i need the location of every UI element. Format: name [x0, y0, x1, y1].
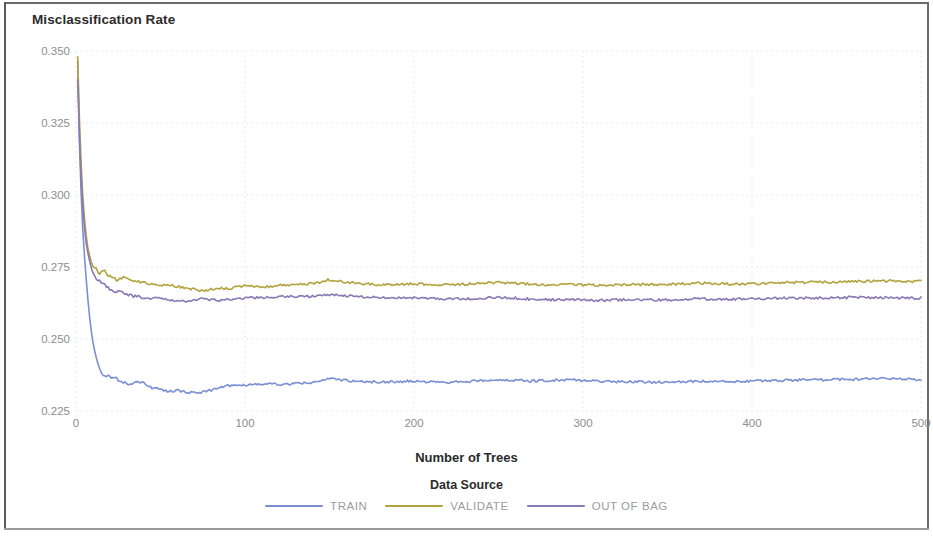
plot-svg: [76, 51, 921, 411]
x-tick-label: 100: [235, 417, 254, 429]
legend-item[interactable]: VALIDATE: [385, 500, 508, 512]
legend-title: Data Source: [0, 478, 933, 492]
series-line-validate: [78, 57, 921, 292]
plot-area: [76, 51, 921, 411]
frame-border-top: [4, 2, 929, 4]
y-tick-label: 0.350: [24, 45, 70, 57]
y-tick-label: 0.225: [24, 405, 70, 417]
y-tick-label: 0.250: [24, 333, 70, 345]
legend-color-swatch: [385, 505, 443, 508]
x-tick-label: 300: [573, 417, 592, 429]
x-tick-label: 0: [73, 417, 79, 429]
chart-title: Misclassification Rate: [32, 12, 175, 27]
legend-item[interactable]: TRAIN: [265, 500, 367, 512]
y-tick-label: 0.300: [24, 189, 70, 201]
x-tick-label: 500: [911, 417, 930, 429]
legend-color-swatch: [527, 505, 585, 508]
x-axis-tick-labels: 0100200300400500: [76, 417, 921, 437]
x-tick-label: 200: [404, 417, 423, 429]
x-axis-title: Number of Trees: [0, 450, 933, 465]
legend-item[interactable]: OUT OF BAG: [527, 500, 668, 512]
series-line-train: [78, 61, 921, 394]
legend-item-label: VALIDATE: [450, 500, 508, 512]
series-lines: [78, 57, 921, 394]
x-tick-label: 400: [742, 417, 761, 429]
series-line-out-of-bag: [78, 80, 921, 302]
legend-item-label: OUT OF BAG: [592, 500, 668, 512]
y-tick-label: 0.325: [24, 117, 70, 129]
frame-border-bottom: [4, 528, 929, 530]
y-tick-label: 0.275: [24, 261, 70, 273]
y-axis-tick-labels: 0.2250.2500.2750.3000.3250.350: [22, 51, 70, 411]
legend-color-swatch: [265, 505, 323, 508]
gridlines: [76, 51, 921, 411]
chart-legend: TRAINVALIDATEOUT OF BAG: [0, 500, 933, 512]
legend-item-label: TRAIN: [330, 500, 367, 512]
chart-screenshot: Misclassification Rate 0.2250.2500.2750.…: [0, 0, 933, 537]
